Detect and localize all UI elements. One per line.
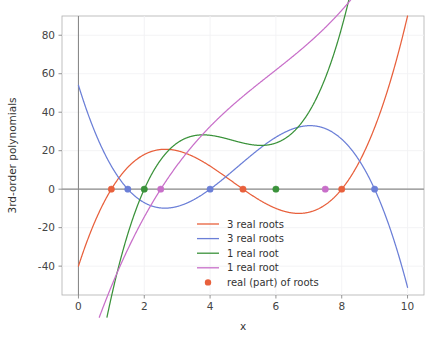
y-tick-label: -20 <box>38 221 55 233</box>
y-axis-label: 3rd-order polynomials <box>6 97 18 213</box>
legend-label: real (part) of roots <box>227 277 319 288</box>
y-tick-label: 40 <box>42 106 55 118</box>
legend-label: 1 real root <box>227 262 279 273</box>
x-tick-label: 10 <box>401 300 414 312</box>
x-tick-label: 4 <box>207 300 214 312</box>
x-tick-label: 2 <box>141 300 148 312</box>
y-tick-label: -40 <box>38 260 55 272</box>
x-tick-label: 0 <box>75 300 82 312</box>
y-tick-label: 80 <box>42 29 55 41</box>
x-tick-label: 8 <box>338 300 345 312</box>
x-axis-label: x <box>240 320 246 332</box>
x-tick-label: 6 <box>273 300 280 312</box>
legend-marker-swatch <box>205 279 211 285</box>
y-tick-label: 0 <box>48 183 55 195</box>
chart-figure: 0246810 806040200-20-40 x 3rd-order poly… <box>0 0 443 339</box>
y-tick-label: 60 <box>42 67 55 79</box>
legend-label: 3 real roots <box>227 219 284 230</box>
legend-label: 1 real root <box>227 248 279 259</box>
y-tick-label: 20 <box>42 144 55 156</box>
polynomial-roots-chart: 0246810 806040200-20-40 x 3rd-order poly… <box>0 0 443 339</box>
legend-label: 3 real roots <box>227 233 284 244</box>
